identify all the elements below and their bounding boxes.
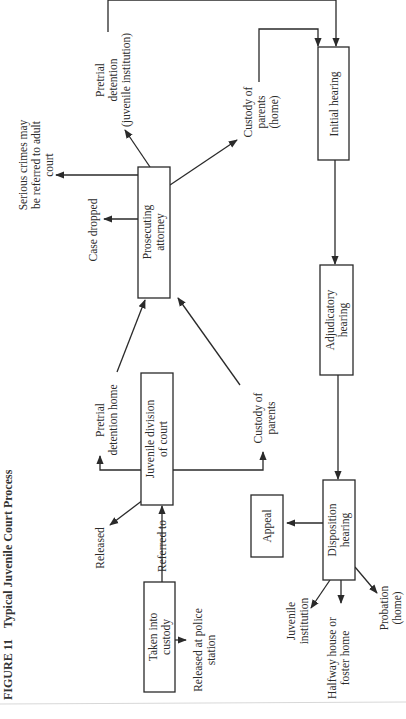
label-juvenile-institution: Juvenile institution bbox=[285, 597, 310, 644]
svg-text:Appeal: Appeal bbox=[261, 509, 274, 542]
edge-pretrial-home-to-prosecutor bbox=[117, 300, 145, 372]
svg-text:be referred to adult: be referred to adult bbox=[30, 120, 42, 209]
svg-text:(juvenile institution): (juvenile institution) bbox=[120, 33, 133, 127]
label-referred-to: Referred to bbox=[156, 520, 168, 572]
node-initial-hearing: Initial hearing bbox=[318, 47, 349, 160]
juvenile-court-flowchart: FIGURE 11 Typical Juvenile Court Process… bbox=[0, 0, 406, 719]
edge-prosecutor-to-pretrial-juvenile bbox=[125, 130, 150, 167]
svg-text:(home): (home) bbox=[391, 591, 404, 624]
svg-text:Pretrial: Pretrial bbox=[94, 403, 106, 437]
label-case-dropped: Case dropped bbox=[87, 198, 100, 261]
svg-text:Halfway house or: Halfway house or bbox=[326, 617, 339, 699]
svg-text:Juvenile division: Juvenile division bbox=[144, 400, 156, 479]
svg-text:Probation: Probation bbox=[378, 585, 390, 630]
svg-text:Taken into: Taken into bbox=[147, 612, 159, 661]
edge-prosecutor-to-custody-home bbox=[170, 140, 237, 185]
edge-custody-parents-to-prosecutor bbox=[178, 298, 240, 385]
svg-text:institution: institution bbox=[298, 597, 310, 644]
svg-text:attorney: attorney bbox=[154, 213, 167, 251]
svg-text:Serious crimes may: Serious crimes may bbox=[17, 119, 30, 210]
svg-text:Initial hearing: Initial hearing bbox=[328, 71, 341, 136]
svg-text:Case dropped: Case dropped bbox=[87, 198, 100, 261]
edge-disposition-to-probation bbox=[355, 567, 377, 593]
label-pretrial-detention-home: Pretrial detention home bbox=[94, 384, 119, 455]
node-prosecuting-attorney: Prosecuting attorney bbox=[138, 167, 170, 298]
svg-text:custody: custody bbox=[160, 619, 173, 655]
svg-text:Adjudicatory: Adjudicatory bbox=[324, 289, 337, 350]
label-serious-crimes: Serious crimes may be referred to adult … bbox=[17, 119, 55, 210]
edge-disposition-to-juvenile-institution bbox=[311, 580, 330, 608]
svg-text:Pretrial: Pretrial bbox=[94, 63, 106, 97]
svg-text:Custody of: Custody of bbox=[252, 392, 265, 443]
page-edge bbox=[0, 702, 406, 704]
svg-text:detention: detention bbox=[107, 58, 119, 101]
edge-juvenile-to-released bbox=[110, 500, 143, 525]
node-disposition-hearing: Disposition hearing bbox=[323, 480, 355, 580]
svg-text:Juvenile: Juvenile bbox=[285, 602, 297, 640]
svg-text:detention home: detention home bbox=[107, 384, 119, 455]
svg-text:hearing: hearing bbox=[339, 513, 352, 548]
svg-text:Referred to: Referred to bbox=[156, 520, 168, 572]
svg-text:hearing: hearing bbox=[337, 303, 350, 338]
svg-text:(home): (home) bbox=[268, 95, 281, 128]
svg-text:Custody of: Custody of bbox=[242, 86, 255, 137]
edge-pretrial-juvenile-to-initial bbox=[108, 0, 336, 46]
svg-text:court: court bbox=[43, 152, 55, 176]
label-halfway-house: Halfway house or foster home bbox=[326, 617, 351, 699]
node-appeal: Appeal bbox=[251, 495, 283, 557]
figure-number: FIGURE 11 bbox=[1, 639, 15, 700]
node-taken-into-custody: Taken into custody bbox=[144, 582, 175, 692]
svg-text:Released: Released bbox=[94, 527, 106, 569]
figure-caption: FIGURE 11 Typical Juvenile Court Process bbox=[1, 469, 15, 700]
label-pretrial-detention-juvenile: Pretrial detention (juvenile institution… bbox=[94, 33, 133, 127]
svg-text:Released at police: Released at police bbox=[192, 608, 205, 692]
svg-text:Disposition: Disposition bbox=[326, 503, 339, 556]
edge-custody-home-to-initial bbox=[259, 29, 318, 82]
svg-text:parents: parents bbox=[255, 95, 268, 129]
label-custody-of-parents-home: Custody of parents (home) bbox=[242, 86, 281, 137]
label-probation: Probation (home) bbox=[378, 585, 404, 630]
edge-juvenile-to-pretrial-home bbox=[100, 456, 141, 470]
svg-text:parents: parents bbox=[265, 401, 278, 435]
label-custody-of-parents: Custody of parents bbox=[252, 392, 278, 443]
svg-text:station: station bbox=[205, 634, 217, 665]
label-released-at-police: Released at police station bbox=[192, 608, 217, 692]
svg-text:of court: of court bbox=[157, 420, 169, 457]
edge-juvenile-to-custody-parents bbox=[173, 452, 263, 470]
svg-text:FIGURE 11 Typical Juveni: FIGURE 11 Typical Juvenile Court Process bbox=[1, 469, 15, 700]
node-adjudicatory-hearing: Adjudicatory hearing bbox=[320, 265, 353, 375]
label-released: Released bbox=[94, 527, 106, 569]
svg-text:foster home: foster home bbox=[339, 631, 351, 686]
node-juvenile-division: Juvenile division of court bbox=[141, 373, 173, 505]
svg-text:Prosecuting: Prosecuting bbox=[141, 205, 154, 260]
figure-title: Typical Juvenile Court Process bbox=[1, 469, 15, 628]
